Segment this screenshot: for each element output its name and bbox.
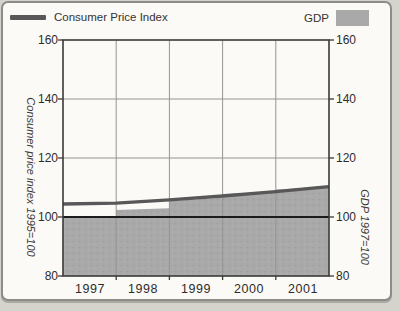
legend-gdp-label: GDP [304, 12, 329, 24]
right-ytick-160: 160 [336, 34, 366, 46]
left-ytick-160: 160 [28, 34, 58, 46]
left-ytick-80: 80 [28, 270, 58, 282]
cpi-line-swatch-icon [10, 15, 46, 20]
legend-item-gdp: GDP [304, 10, 369, 26]
xtick-2000: 2000 [227, 283, 271, 296]
right-ytick-80: 80 [336, 270, 366, 282]
right-ytick-140: 140 [336, 93, 366, 105]
legend-cpi-label: Consumer Price Index [54, 11, 168, 23]
gdp-area-swatch-icon [336, 10, 369, 26]
legend-item-cpi: Consumer Price Index [10, 11, 168, 23]
xtick-1997: 1997 [68, 283, 112, 296]
figure: Consumer Price Index GDP 160 140 120 100… [0, 0, 399, 311]
right-ytick-120: 120 [336, 152, 366, 164]
xtick-1998: 1998 [121, 283, 165, 296]
xtick-1999: 1999 [174, 283, 218, 296]
right-axis-title: GDP 1997=100 [359, 189, 371, 265]
xtick-2001: 2001 [281, 283, 325, 296]
left-axis-title: Consumer price index 1995=100 [25, 97, 37, 256]
